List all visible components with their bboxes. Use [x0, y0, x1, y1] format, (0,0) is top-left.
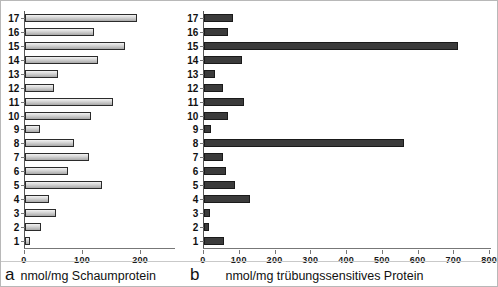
bar — [25, 153, 89, 161]
x-axis-tick — [82, 250, 83, 254]
y-axis-tick — [21, 60, 25, 61]
y-axis-tick-label: 5 — [193, 180, 198, 191]
y-axis-tick-label: 9 — [14, 124, 19, 135]
y-axis-tick — [200, 32, 204, 33]
y-axis-tick — [200, 171, 204, 172]
x-axis-tick-label: 200 — [132, 255, 148, 265]
bar — [204, 195, 250, 203]
figure-container: 1234567891011121314151617 0100200 a nmol… — [0, 0, 498, 287]
bar-row: 8 — [204, 136, 491, 150]
x-axis-tick-label: 800 — [481, 255, 497, 265]
bar — [204, 14, 233, 22]
bar — [204, 125, 211, 133]
bar-row: 14 — [204, 53, 491, 67]
x-axis-tick — [346, 250, 347, 254]
x-axis-tick-label: 300 — [302, 255, 318, 265]
x-axis-tick-label: 0 — [200, 255, 205, 265]
bar-row: 6 — [204, 164, 491, 178]
x-axis-tick-label: 500 — [374, 255, 390, 265]
x-axis-tick-label: 0 — [21, 255, 26, 265]
y-axis-tick — [200, 143, 204, 144]
bar-row: 8 — [25, 136, 175, 150]
y-axis-tick — [200, 102, 204, 103]
y-axis-tick — [21, 185, 25, 186]
bar-row: 16 — [204, 25, 491, 39]
y-axis-tick-label: 12 — [8, 82, 19, 93]
bar — [25, 84, 54, 92]
y-axis-tick — [21, 241, 25, 242]
bar — [25, 42, 125, 50]
bar-row: 13 — [204, 67, 491, 81]
x-axis-line-b — [203, 248, 491, 249]
bar-row: 7 — [204, 150, 491, 164]
y-axis-tick-label: 13 — [8, 68, 19, 79]
bar — [25, 98, 113, 106]
y-axis-tick — [21, 74, 25, 75]
bar-row: 16 — [25, 25, 175, 39]
y-axis-tick-label: 10 — [187, 110, 198, 121]
y-axis-tick-label: 4 — [14, 194, 19, 205]
y-axis-tick — [200, 129, 204, 130]
bar-row: 10 — [204, 109, 491, 123]
y-axis-tick-label: 16 — [187, 26, 198, 37]
bar-row: 12 — [204, 81, 491, 95]
bar-row: 10 — [25, 109, 175, 123]
x-axis-title-b: nmol/mg trübungssensitives Protein — [225, 269, 423, 283]
x-axis-tick — [275, 250, 276, 254]
bar — [25, 125, 40, 133]
x-axis-tick — [382, 250, 383, 254]
x-axis-tick-label: 100 — [231, 255, 247, 265]
bar — [25, 209, 56, 217]
bar — [25, 195, 49, 203]
x-axis-tick — [140, 250, 141, 254]
bar — [204, 56, 242, 64]
panel-letter-b: b — [190, 265, 199, 285]
bar — [204, 139, 404, 147]
plot-area-a: 1234567891011121314151617 0100200 — [24, 11, 175, 249]
y-axis-tick — [21, 32, 25, 33]
y-axis-tick-label: 14 — [8, 54, 19, 65]
chart-panel-b: 1234567891011121314151617 01002003004005… — [182, 1, 498, 287]
bar — [25, 28, 94, 36]
bar-row: 9 — [204, 123, 491, 137]
y-axis-tick — [200, 199, 204, 200]
bar — [25, 223, 41, 231]
bar-rows-a: 1234567891011121314151617 — [25, 11, 175, 248]
y-axis-tick-label: 3 — [14, 208, 19, 219]
y-axis-tick-label: 5 — [14, 180, 19, 191]
y-axis-tick-label: 17 — [8, 12, 19, 23]
bar-row: 5 — [25, 178, 175, 192]
y-axis-tick — [200, 213, 204, 214]
x-axis-line-a — [24, 248, 175, 249]
x-axis-tick — [24, 250, 25, 254]
bar-row: 2 — [204, 220, 491, 234]
y-axis-tick — [200, 185, 204, 186]
bar-row: 5 — [204, 178, 491, 192]
x-axis-tick — [418, 250, 419, 254]
bar-row: 1 — [25, 234, 175, 248]
y-axis-tick — [200, 227, 204, 228]
y-axis-tick-label: 11 — [9, 96, 19, 107]
bar-rows-b: 1234567891011121314151617 — [204, 11, 491, 248]
x-axis-title-a: nmol/mg Schaumprotein — [20, 269, 155, 283]
x-axis-tick-label: 600 — [410, 255, 426, 265]
y-axis-tick-label: 11 — [188, 96, 198, 107]
y-axis-tick-label: 17 — [187, 12, 198, 23]
y-axis-tick — [200, 46, 204, 47]
bar — [204, 98, 244, 106]
bar — [25, 139, 74, 147]
x-axis-tick — [453, 250, 454, 254]
y-axis-tick — [21, 227, 25, 228]
bar-row: 14 — [25, 53, 175, 67]
bar-row: 1 — [204, 234, 491, 248]
bar — [204, 70, 215, 78]
y-axis-tick — [200, 74, 204, 75]
bar — [204, 42, 458, 50]
x-axis-tick — [203, 250, 204, 254]
x-axis-tick-label: 100 — [74, 255, 90, 265]
y-axis-tick-label: 15 — [8, 40, 19, 51]
bar-row: 3 — [204, 206, 491, 220]
bar — [25, 237, 30, 245]
y-axis-tick-label: 16 — [8, 26, 19, 37]
bar — [204, 28, 228, 36]
